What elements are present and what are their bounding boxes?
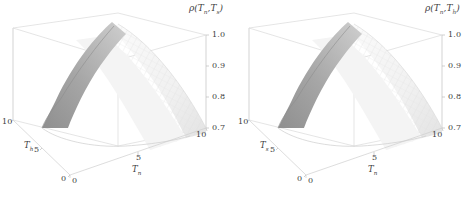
z-title-close: ) [219, 3, 223, 13]
surface-plot-graphic-right [236, 0, 472, 197]
y-tick-label-5: 5 [372, 154, 377, 162]
surface-plot-graphic-left [0, 0, 236, 197]
plot-panel-left: ρ(Tn,Ts) 1.0 0.9 0.8 0.7 10 5 0 Th 0 5 1… [0, 0, 236, 197]
y-tick-label-0: 0 [72, 177, 77, 185]
x-tick-label-0: 0 [61, 175, 66, 183]
z-axis-title: ρ(Tn,Th) [425, 4, 460, 16]
x-axis-label: Th [24, 141, 33, 152]
y-tick-label-10: 10 [196, 131, 207, 139]
y-tick-label-5: 5 [136, 154, 141, 162]
x-axis-label: Ts [260, 141, 269, 152]
y-axis-label-sub: n [374, 170, 378, 176]
z-tick-marks [442, 35, 445, 128]
x-axis-label-sub: s [266, 146, 269, 152]
y-axis-label: Tn [368, 165, 377, 176]
z-tick-label-4: 0.7 [212, 124, 225, 132]
surface-plot-figure: ρ(Tn,Ts) 1.0 0.9 0.8 0.7 10 5 0 Th 0 5 1… [0, 0, 472, 197]
z-tick-label-3: 0.8 [448, 93, 461, 101]
z-tick-marks [206, 35, 209, 128]
plot-panel-right: ρ(Tn,Th) 1.0 0.9 0.8 0.7 10 5 0 Ts 0 5 1… [236, 0, 472, 197]
y-axis-label-sub: n [138, 170, 142, 176]
y-tick-label-0: 0 [308, 177, 313, 185]
x-tick-label-5: 5 [270, 146, 275, 154]
x-tick-label-10: 10 [238, 118, 249, 126]
z-axis-title: ρ(Tn,Ts) [189, 4, 223, 16]
z-tick-label-4: 0.7 [448, 124, 461, 132]
z-tick-label-1: 1.0 [212, 31, 225, 39]
z-tick-label-3: 0.8 [212, 93, 225, 101]
y-axis-label: Tn [132, 165, 141, 176]
x-tick-label-10: 10 [2, 118, 13, 126]
z-tick-label-2: 0.9 [212, 62, 225, 70]
y-tick-label-10: 10 [432, 131, 443, 139]
x-tick-label-5: 5 [34, 146, 39, 154]
x-tick-label-0: 0 [297, 175, 302, 183]
x-axis-label-sub: h [30, 146, 34, 152]
z-tick-label-1: 1.0 [448, 31, 461, 39]
z-tick-label-2: 0.9 [448, 62, 461, 70]
z-title-close: ) [456, 3, 460, 13]
